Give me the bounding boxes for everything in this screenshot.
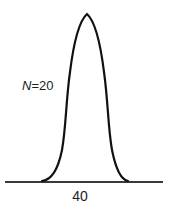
normal-curve-path	[42, 14, 128, 181]
series-label-relation: =	[31, 78, 39, 93]
series-label-value: 20	[39, 78, 53, 93]
distribution-figure: N=20 40	[0, 0, 169, 210]
series-label-n20: N=20	[22, 79, 53, 92]
x-axis-tick-label-40: 40	[0, 189, 160, 203]
distribution-plot	[0, 0, 169, 210]
series-label-symbol: N	[22, 78, 31, 93]
